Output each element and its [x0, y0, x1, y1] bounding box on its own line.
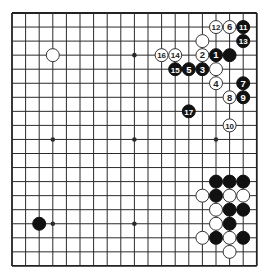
black-stone: 13 [237, 35, 250, 48]
white-stone-disc [223, 189, 236, 202]
move-number-label: 15 [171, 66, 180, 75]
white-stone [196, 189, 209, 202]
star-point [51, 221, 56, 226]
black-stone [210, 175, 223, 188]
white-stone-disc [210, 217, 223, 230]
black-stone-disc [223, 49, 236, 62]
star-point [51, 137, 56, 142]
black-stone-disc [33, 217, 46, 230]
move-number-label: 9 [241, 92, 246, 103]
black-stone: 17 [182, 105, 195, 118]
white-stone-disc [210, 203, 223, 216]
black-stone: 3 [196, 63, 209, 76]
star-point [132, 53, 137, 58]
white-stone [210, 63, 223, 76]
move-number-label: 14 [171, 51, 180, 60]
move-number-label: 16 [157, 51, 166, 60]
white-stone: 16 [155, 49, 168, 62]
black-stone [33, 217, 46, 230]
white-stone-disc [196, 231, 209, 244]
white-stone [223, 245, 236, 258]
black-stone: 11 [237, 21, 250, 34]
move-number-label: 10 [225, 122, 234, 131]
move-number-label: 2 [200, 49, 205, 60]
white-stone [196, 35, 209, 48]
go-board-grid[interactable]: 1261113161421155347891710 [0, 0, 267, 275]
white-stone: 12 [210, 21, 223, 34]
black-stone-disc [223, 217, 236, 230]
star-point [214, 137, 219, 142]
white-stone [223, 231, 236, 244]
move-number-label: 12 [212, 23, 221, 32]
move-number-label: 4 [213, 78, 219, 89]
white-stone-disc [46, 49, 59, 62]
white-stone-disc [223, 231, 236, 244]
move-number-label: 6 [227, 21, 232, 32]
white-stone: 6 [223, 21, 236, 34]
white-stone: 10 [223, 119, 236, 132]
white-stone: 2 [196, 49, 209, 62]
black-stone: 15 [169, 63, 182, 76]
move-number-label: 17 [184, 108, 193, 117]
move-number-label: 13 [239, 37, 248, 46]
black-stone: 1 [210, 49, 223, 62]
black-stone-disc [237, 175, 250, 188]
black-stone: 5 [182, 63, 195, 76]
white-stone-disc [223, 245, 236, 258]
black-stone-disc [237, 231, 250, 244]
move-number-label: 8 [227, 92, 232, 103]
white-stone [196, 231, 209, 244]
black-stone-disc [210, 231, 223, 244]
white-stone-disc [196, 189, 209, 202]
star-point [132, 137, 137, 142]
go-board: 1261113161421155347891710 [0, 0, 267, 275]
white-stone-disc [237, 189, 250, 202]
black-stone-disc [223, 203, 236, 216]
black-stone [237, 203, 250, 216]
black-stone [210, 189, 223, 202]
white-stone [210, 203, 223, 216]
white-stone [237, 189, 250, 202]
move-number-label: 5 [186, 64, 192, 75]
move-number-label: 11 [239, 23, 248, 32]
move-number-label: 7 [241, 78, 246, 89]
star-point [132, 221, 137, 226]
white-stone [46, 49, 59, 62]
black-stone-disc [210, 175, 223, 188]
move-number-label: 3 [200, 64, 205, 75]
black-stone [237, 231, 250, 244]
white-stone [223, 189, 236, 202]
white-stone: 14 [169, 49, 182, 62]
black-stone [223, 49, 236, 62]
black-stone: 9 [237, 91, 250, 104]
black-stone [210, 231, 223, 244]
black-stone-disc [210, 189, 223, 202]
black-stone [223, 175, 236, 188]
black-stone [237, 175, 250, 188]
black-stone: 7 [237, 77, 250, 90]
white-stone: 8 [223, 91, 236, 104]
white-stone-disc [210, 63, 223, 76]
white-stone-disc [196, 35, 209, 48]
black-stone-disc [237, 203, 250, 216]
white-stone: 4 [210, 77, 223, 90]
move-number-label: 1 [213, 49, 219, 60]
white-stone [210, 217, 223, 230]
black-stone [223, 217, 236, 230]
black-stone [223, 203, 236, 216]
black-stone-disc [223, 175, 236, 188]
